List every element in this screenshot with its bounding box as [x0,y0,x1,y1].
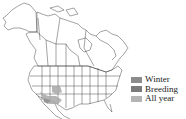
canada-outline [26,12,128,72]
legend-label: All year [145,94,174,103]
alaska-outline [3,3,37,32]
winter-swatch [131,77,142,83]
all-year-swatch [131,96,142,102]
map-outlines [3,3,128,119]
legend: Winter Breeding All year [131,75,178,104]
range-shading [40,86,62,104]
breeding-swatch [131,86,142,92]
legend-label: Winter [145,75,170,84]
legend-item-all-year: All year [131,94,178,104]
